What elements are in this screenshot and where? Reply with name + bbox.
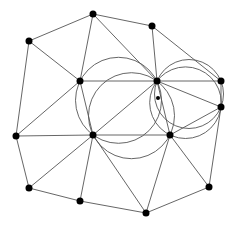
vertex-h (13, 133, 20, 140)
edge-b-h (16, 41, 29, 136)
edge-j-n (170, 135, 209, 187)
vertex-g (218, 104, 225, 111)
edge-m-n (146, 187, 209, 213)
vertex-m (143, 210, 150, 217)
circumcircle-eij (89, 73, 175, 159)
edge-i-m (93, 135, 146, 213)
vertex-l (77, 198, 84, 205)
edge-d-h (16, 81, 80, 136)
edge-l-m (80, 201, 146, 213)
vertex-d (77, 78, 84, 85)
circumcircle-dei (76, 57, 162, 143)
edge-h-i (16, 135, 93, 136)
vertex-f (218, 78, 225, 85)
edge-i-k (29, 135, 93, 188)
edge-k-l (29, 188, 80, 201)
edge-b-d (29, 41, 80, 81)
edge-c-e (152, 26, 157, 81)
edge-g-n (209, 107, 221, 187)
edge-a-c (93, 14, 152, 26)
vertex-c (149, 23, 156, 30)
vertex-b (26, 38, 33, 45)
edge-a-b (29, 14, 93, 41)
vertex-k (26, 185, 33, 192)
vertex-i (90, 132, 97, 139)
edge-g-j (170, 107, 221, 135)
edge-d-i (80, 81, 93, 135)
edge-e-i (93, 81, 157, 135)
vertex-a (90, 11, 97, 18)
vertex-e (154, 78, 161, 85)
edge-i-l (80, 135, 93, 201)
edge-e-g (157, 81, 221, 107)
vertex-n (206, 184, 213, 191)
vertex-p (156, 96, 160, 100)
vertex-j (167, 132, 174, 139)
edge-a-e (93, 14, 157, 81)
edge-j-m (146, 135, 170, 213)
triangulation-edges (16, 14, 221, 213)
triangulation-diagram (0, 0, 236, 225)
edge-h-k (16, 136, 29, 188)
